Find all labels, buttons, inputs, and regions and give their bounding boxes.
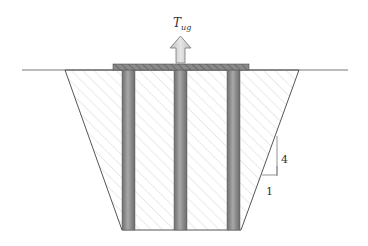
pile-middle — [174, 70, 187, 230]
force-label: Tug — [173, 16, 191, 32]
slope-rise-label: 4 — [281, 153, 288, 166]
pile-left — [122, 70, 135, 230]
pile-right — [227, 70, 240, 230]
slope-run-label: 1 — [266, 185, 273, 198]
pile-group-diagram: Tug 4 1 — [0, 0, 368, 246]
pile-cap — [113, 64, 249, 70]
uplift-arrow-icon — [170, 36, 191, 63]
slope-triangle — [262, 166, 277, 175]
